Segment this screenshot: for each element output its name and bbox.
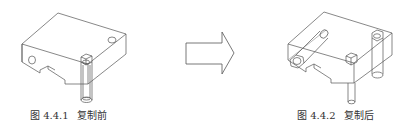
top-hole <box>108 37 116 43</box>
arrow-right-icon <box>186 32 234 74</box>
block-top-face <box>288 12 392 63</box>
caption-text: 复制前 <box>77 110 107 121</box>
side-hole <box>29 56 36 64</box>
bolt-original <box>372 30 383 78</box>
block-top-face <box>22 13 126 64</box>
figure-caption-after: 图 4.4.2复制后 <box>297 107 374 122</box>
bolt-copy-top <box>346 53 357 104</box>
model-after <box>288 12 392 104</box>
model-before <box>22 13 126 103</box>
bolt-copy-side <box>290 28 330 68</box>
caption-number: 图 4.4.1 <box>30 110 69 121</box>
caption-text: 复制后 <box>344 110 374 121</box>
bolt <box>81 54 92 103</box>
figure-caption-before: 图 4.4.1复制前 <box>30 107 107 122</box>
caption-number: 图 4.4.2 <box>297 110 336 121</box>
